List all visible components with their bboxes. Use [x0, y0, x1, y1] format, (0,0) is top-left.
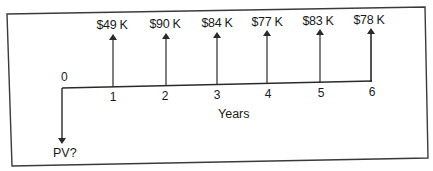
diagram-frame	[7, 7, 428, 166]
amount-label-1: $49 K	[96, 18, 128, 32]
cash-flow-diagram: $49 K $90 K $84 K $77 K $83 K $78 K 0 1 …	[0, 0, 433, 171]
axis-label-years: Years	[218, 107, 250, 121]
amount-label-3: $84 K	[201, 16, 233, 30]
period-label-6: 6	[369, 85, 376, 99]
cash-flow-arrows	[113, 31, 371, 87]
amount-label-2: $90 K	[149, 17, 181, 31]
period-label-1: 1	[110, 90, 117, 104]
period-label-3: 3	[214, 88, 221, 102]
period-label-4: 4	[265, 87, 272, 101]
period-label-2: 2	[162, 89, 169, 103]
origin-label: 0	[61, 70, 68, 84]
amount-label-4: $77 K	[251, 15, 283, 29]
amount-label-6: $78 K	[353, 13, 385, 27]
period-label-5: 5	[318, 86, 325, 100]
amount-label-5: $83 K	[302, 14, 334, 28]
present-value-label: PV?	[53, 146, 77, 160]
